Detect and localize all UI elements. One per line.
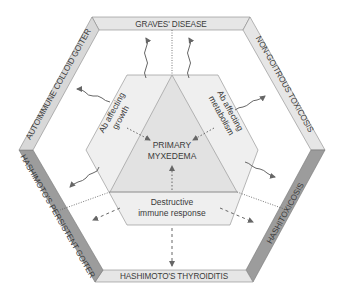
wavy-arrow-to-hashimotos-persistent-goiter (70, 167, 99, 187)
svg-text:MYXEDEMA: MYXEDEMA (148, 151, 197, 161)
dashed-arrow-destructive-to-persistent-goiter (93, 208, 120, 220)
wavy-arrow-to-graves-right (188, 38, 191, 78)
wavy-arrow-to-non-goitrous-toxicosis (235, 96, 265, 110)
svg-text:immune response: immune response (138, 208, 206, 218)
label-non-goitrous-toxicosis: NON-GOITROUS TOXICOSIS (254, 35, 316, 135)
svg-text:Destructive: Destructive (151, 197, 194, 207)
label-hashimotos-thyroiditis: HASHIMOTO'S THYROIDITIS (120, 272, 229, 281)
label-hashitoxicosis: HASHITOXICOSIS (265, 181, 306, 245)
label-hashimotos-persistent-goiter: HASHIMOTO'S PERSISTENT GOITER (18, 153, 96, 280)
svg-text:PRIMARY: PRIMARY (153, 140, 192, 150)
label-autoimmune-colloid-goiter: AUTOIMMUNE COLLOID GOITER (24, 27, 93, 141)
wavy-arrow-to-graves-left (145, 38, 148, 78)
wavy-arrow-to-autoimmune-colloid-goiter (77, 89, 110, 102)
label-primary-myxedema: PRIMARY MYXEDEMA (148, 140, 197, 161)
thyroid-disease-hexagon-diagram: GRAVES' DISEASE NON-GOITROUS TOXICOSIS H… (0, 0, 345, 294)
label-graves-disease: GRAVES' DISEASE (135, 20, 207, 29)
